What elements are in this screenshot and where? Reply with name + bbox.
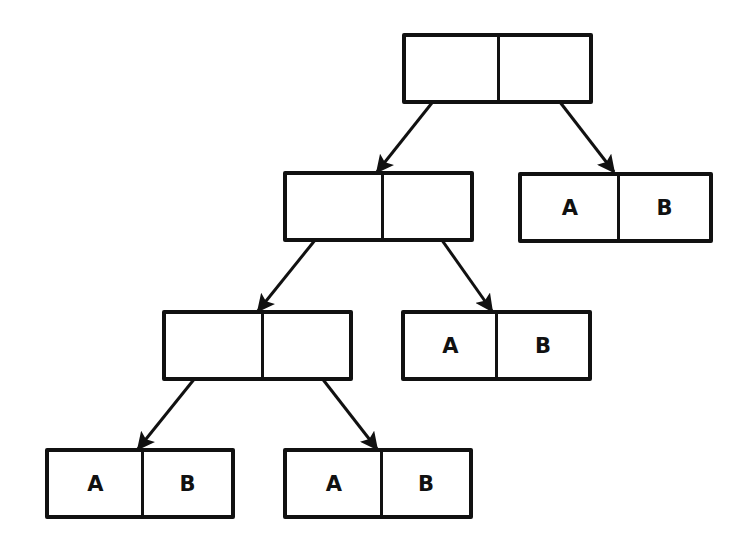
leaf-cell-ab-4: A B (283, 448, 473, 519)
car-slot (166, 314, 262, 377)
cdr-slot: B (383, 452, 469, 515)
cons-cell-level3 (162, 310, 353, 381)
cdr-slot: B (620, 176, 709, 239)
car-slot: A (405, 314, 496, 377)
cons-tree-diagram: A B A B A B A B (0, 0, 750, 555)
cdr-slot (384, 175, 470, 238)
leaf-cell-ab-3: A B (45, 448, 235, 519)
cons-cell-level2 (283, 171, 474, 242)
cons-cell-root (402, 33, 593, 104)
cdr-slot (500, 37, 589, 100)
car-slot: A (49, 452, 142, 515)
car-slot: A (287, 452, 381, 515)
cdr-slot: B (498, 314, 588, 377)
leaf-cell-ab-2: A B (401, 310, 592, 381)
car-slot (406, 37, 498, 100)
car-slot (287, 175, 382, 238)
leaf-cell-ab-1: A B (518, 172, 713, 243)
cdr-slot: B (144, 452, 231, 515)
cdr-slot (264, 314, 349, 377)
car-slot: A (522, 176, 618, 239)
